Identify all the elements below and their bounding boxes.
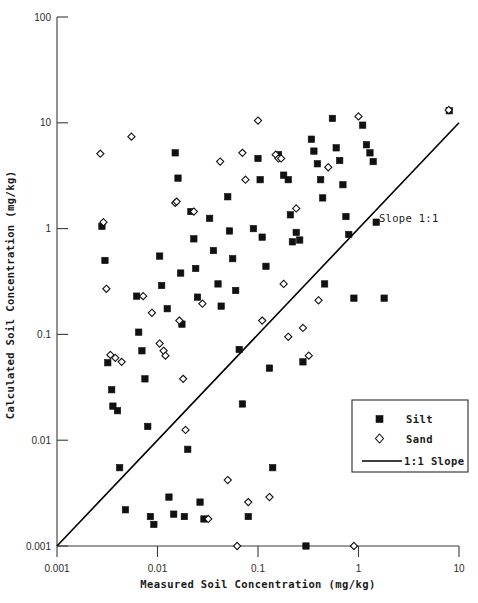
data-point-silt	[193, 265, 199, 271]
data-point-silt	[321, 281, 327, 287]
data-point-silt	[166, 494, 172, 500]
data-point-sand	[325, 164, 332, 171]
data-point-silt	[293, 229, 299, 235]
series-sand-points	[97, 106, 453, 549]
data-point-sand	[128, 133, 135, 140]
data-point-silt	[210, 247, 216, 253]
data-point-sand	[224, 476, 231, 483]
data-point-silt	[164, 305, 170, 311]
y-tick-label: 0.01	[32, 435, 52, 446]
x-axis-title: Measured Soil Concentration (mg/kg)	[140, 578, 375, 590]
data-point-sand	[299, 324, 306, 331]
data-point-silt	[206, 215, 212, 221]
data-point-sand	[242, 176, 249, 183]
data-point-sand	[245, 499, 252, 506]
data-point-sand	[355, 113, 362, 120]
x-axis-ticks: 0.0010.010.1110	[44, 546, 465, 574]
data-point-silt	[102, 257, 108, 263]
data-point-silt	[259, 234, 265, 240]
x-tick-label: 0.001	[44, 563, 69, 574]
data-point-silt	[269, 464, 275, 470]
data-point-silt	[300, 359, 306, 365]
data-point-silt	[226, 228, 232, 234]
data-point-silt	[263, 263, 269, 269]
data-point-silt	[287, 212, 293, 218]
data-point-sand	[118, 358, 125, 365]
data-point-silt	[233, 287, 239, 293]
data-point-silt	[363, 142, 369, 148]
data-point-silt	[337, 157, 343, 163]
data-point-silt	[156, 253, 162, 259]
data-point-silt	[236, 346, 242, 352]
data-point-silt	[136, 329, 142, 335]
data-point-sand	[280, 280, 287, 287]
data-point-silt	[367, 150, 373, 156]
data-point-silt	[147, 513, 153, 519]
data-point-sand	[199, 300, 206, 307]
data-point-sand	[148, 309, 155, 316]
y-tick-label: 10	[40, 117, 52, 128]
data-point-silt	[122, 507, 128, 513]
legend-label-sand: Sand	[406, 433, 433, 445]
data-point-sand	[350, 542, 357, 549]
data-point-silt	[239, 401, 245, 407]
data-point-silt	[145, 423, 151, 429]
data-point-silt	[225, 194, 231, 200]
data-point-sand	[239, 149, 246, 156]
data-point-silt	[311, 148, 317, 154]
data-point-sand	[285, 333, 292, 340]
data-point-sand	[156, 340, 163, 347]
data-point-silt	[172, 150, 178, 156]
data-point-silt	[319, 195, 325, 201]
plot-canvas: 0.0010.010.1110100 0.0010.010.1110 Slope…	[0, 0, 478, 603]
series-silt-points	[99, 108, 453, 550]
data-point-silt	[108, 387, 114, 393]
data-point-silt	[215, 281, 221, 287]
data-point-silt	[114, 408, 120, 414]
y-tick-label: 0.1	[37, 329, 51, 340]
x-tick-label: 10	[453, 563, 465, 574]
data-point-silt	[303, 543, 309, 549]
data-point-silt	[308, 136, 314, 142]
data-point-silt	[340, 182, 346, 188]
data-point-silt	[185, 446, 191, 452]
data-point-silt	[257, 176, 263, 182]
data-point-silt	[105, 360, 111, 366]
y-axis-title: Calculated Soil Concentration (mg/kg)	[4, 171, 16, 420]
one-to-one-reference-line	[57, 123, 459, 546]
data-point-silt	[116, 464, 122, 470]
x-tick-label: 0.1	[251, 563, 265, 574]
data-point-sand	[140, 293, 147, 300]
data-point-silt	[381, 295, 387, 301]
data-point-silt	[197, 499, 203, 505]
data-point-silt	[218, 303, 224, 309]
y-tick-label: 0.001	[26, 541, 51, 552]
data-point-silt	[343, 213, 349, 219]
y-axis-ticks: 0.0010.010.1110100	[26, 12, 68, 552]
legend-label-slope: 1:1 Slope	[404, 455, 465, 467]
data-point-silt	[351, 295, 357, 301]
scatter-plot-figure: 0.0010.010.1110100 0.0010.010.1110 Slope…	[0, 0, 478, 603]
data-point-sand	[180, 375, 187, 382]
legend-label-silt: Silt	[406, 413, 433, 425]
data-point-silt	[370, 158, 376, 164]
data-point-silt	[142, 376, 148, 382]
data-point-silt	[359, 122, 365, 128]
data-point-sand	[266, 493, 273, 500]
data-point-silt	[191, 236, 197, 242]
data-point-silt	[175, 175, 181, 181]
data-point-silt	[139, 348, 145, 354]
data-point-silt	[151, 521, 157, 527]
slope-annotation-label: Slope 1:1	[379, 212, 439, 224]
data-point-silt	[194, 294, 200, 300]
data-point-silt	[250, 225, 256, 231]
data-point-silt	[181, 513, 187, 519]
data-point-silt	[266, 365, 272, 371]
x-tick-label: 0.01	[148, 563, 168, 574]
data-point-silt	[289, 239, 295, 245]
data-point-silt	[285, 176, 291, 182]
data-point-silt	[317, 176, 323, 182]
data-point-sand	[305, 352, 312, 359]
data-point-silt	[229, 255, 235, 261]
data-point-silt	[333, 145, 339, 151]
